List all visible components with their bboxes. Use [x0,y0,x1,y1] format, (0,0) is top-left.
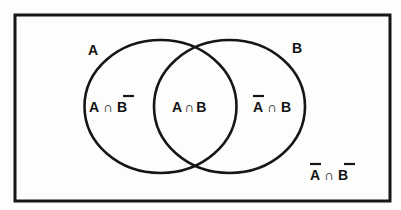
region-neither-label: A ∩ B [310,164,355,183]
svg-text:A∩B: A∩B [172,99,206,115]
region-neither-part-b-complement: B [338,167,348,183]
region-a-only-label: A ∩ B [89,96,134,115]
region-b-only-part-b: B [281,99,291,115]
region-intersection-label: A∩B [172,99,206,115]
region-a-only-part-a: A [89,99,99,115]
svg-text:A ∩ B: A ∩ B [310,167,348,183]
region-b-only-label: A ∩ B [253,96,291,115]
region-neither-part-a-complement: A [310,167,320,183]
region-intersection-part-a: A [172,99,182,115]
region-intersection-part-b: B [196,99,206,115]
svg-text:A ∩ B: A ∩ B [253,99,291,115]
region-b-only-part-a-complement: A [253,99,263,115]
region-intersection-intersect-symbol: ∩ [184,99,194,115]
set-a-label: A [88,42,98,58]
set-b-label: B [292,40,302,56]
region-neither-intersect-symbol: ∩ [320,167,338,183]
region-a-only-part-b-complement: B [117,99,127,115]
region-a-only-intersect-symbol: ∩ [99,99,117,115]
region-b-only-intersect-symbol: ∩ [263,99,281,115]
svg-text:A ∩ B: A ∩ B [89,99,127,115]
venn-diagram: A B A ∩ B A∩B A ∩ B A ∩ B [0,0,401,210]
